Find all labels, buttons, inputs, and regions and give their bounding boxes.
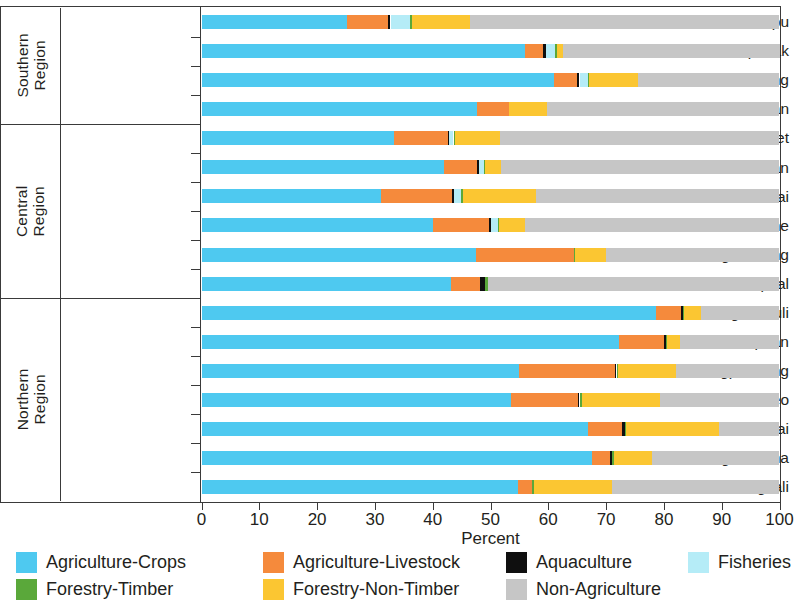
legend-swatch: [506, 579, 527, 600]
bar-segment-agriculture-livestock: [511, 393, 577, 407]
bar-segment-non-agriculture: [500, 131, 779, 145]
x-axis-tick-label: 90: [712, 510, 731, 530]
x-axis-tick-label: 70: [597, 510, 616, 530]
bar-segment-agriculture-crops: [202, 480, 519, 494]
bars-layer: [202, 8, 780, 502]
bar-segment-agriculture-livestock: [477, 102, 509, 116]
y-axis-tick: [191, 66, 200, 67]
y-axis-tick: [191, 124, 200, 125]
x-axis-tick: [375, 503, 376, 510]
x-axis-tick: [722, 503, 723, 510]
legend-swatch: [263, 552, 284, 573]
bar-segment-agriculture-crops: [202, 277, 451, 291]
bar-segment-non-agriculture: [612, 480, 779, 494]
x-axis-tick: [259, 503, 260, 510]
bar-segment-non-agriculture: [652, 451, 779, 465]
bar-segment-fisheries: [391, 15, 410, 29]
y-axis-tick: [191, 240, 200, 241]
region-label: CentralRegion: [2, 124, 60, 298]
legend-item-aquaculture[interactable]: Aquaculture: [506, 552, 632, 573]
bar-segment-agriculture-crops: [202, 189, 381, 203]
bar-segment-non-agriculture: [547, 102, 779, 116]
bar-row: [202, 364, 780, 378]
bar-segment-agriculture-livestock: [476, 248, 574, 262]
x-axis-tick-label: 10: [250, 510, 269, 530]
bar-segment-forestry-non-timber: [455, 131, 501, 145]
bar-segment-forestry-non-timber: [626, 422, 718, 436]
legend-item-agriculture-livestock[interactable]: Agriculture-Livestock: [263, 552, 460, 573]
legend-label: Forestry-Timber: [46, 579, 173, 600]
bar-segment-agriculture-crops: [202, 102, 478, 116]
legend-swatch: [506, 552, 527, 573]
bar-segment-forestry-non-timber: [412, 15, 470, 29]
x-axis-tick-label: 20: [308, 510, 327, 530]
bar-segment-agriculture-livestock: [588, 422, 623, 436]
bar-row: [202, 218, 780, 232]
region-group-southern-region: SouthernRegion: [0, 8, 200, 124]
bar-segment-agriculture-livestock: [433, 218, 490, 232]
region-vertical-divider: [60, 298, 61, 501]
y-axis-tick: [191, 385, 200, 386]
region-label-text: NorthernRegion: [14, 369, 49, 431]
bar-segment-agriculture-livestock: [518, 480, 532, 494]
bar-segment-non-agriculture: [676, 364, 779, 378]
bar-row: [202, 393, 780, 407]
bar-segment-agriculture-livestock: [381, 189, 453, 203]
bar-segment-agriculture-crops: [202, 15, 348, 29]
x-axis-tick: [606, 503, 607, 510]
legend-label: Forestry-Non-Timber: [293, 579, 459, 600]
bar-segment-agriculture-crops: [202, 73, 555, 87]
bar-segment-non-agriculture: [563, 44, 780, 58]
legend-item-forestry-non-timber[interactable]: Forestry-Non-Timber: [263, 579, 459, 600]
y-axis-tick: [191, 95, 200, 96]
bar-segment-agriculture-crops: [202, 364, 520, 378]
bar-segment-forestry-non-timber: [667, 335, 680, 349]
bar-row: [202, 480, 780, 494]
bar-segment-forestry-non-timber: [575, 248, 606, 262]
bar-segment-agriculture-crops: [202, 131, 394, 145]
bar-row: [202, 451, 780, 465]
legend-label: Non-Agriculture: [536, 579, 661, 600]
bar-segment-fisheries: [546, 44, 555, 58]
y-axis-tick: [191, 182, 200, 183]
x-axis-tick: [317, 503, 318, 510]
bar-segment-agriculture-livestock: [592, 451, 610, 465]
bar-segment-agriculture-livestock: [519, 364, 614, 378]
y-axis-tick: [191, 298, 200, 299]
x-axis-tick-label: 60: [539, 510, 558, 530]
bar-segment-forestry-non-timber: [499, 218, 524, 232]
legend-item-fisheries[interactable]: Fisheries: [688, 552, 791, 573]
bar-segment-agriculture-crops: [202, 422, 588, 436]
bar-segment-non-agriculture: [536, 189, 779, 203]
x-axis-tick-label: 100: [765, 510, 793, 530]
bar-segment-forestry-non-timber: [485, 160, 502, 174]
bar-segment-forestry-non-timber: [589, 73, 638, 87]
x-axis-tick-label: 80: [654, 510, 673, 530]
region-group-central-region: CentralRegion: [0, 124, 200, 298]
bar-segment-agriculture-crops: [202, 335, 620, 349]
bar-row: [202, 102, 780, 116]
bar-segment-forestry-non-timber: [582, 393, 660, 407]
bar-row: [202, 44, 780, 58]
legend-item-forestry-timber[interactable]: Forestry-Timber: [16, 579, 173, 600]
bar-segment-forestry-non-timber: [684, 306, 701, 320]
bar-row: [202, 160, 780, 174]
y-axis-tick: [191, 356, 200, 357]
region-separator: [0, 298, 200, 299]
y-axis-tick: [191, 443, 200, 444]
region-vertical-divider: [60, 124, 61, 298]
bar-segment-forestry-non-timber: [509, 102, 547, 116]
bar-segment-agriculture-crops: [202, 393, 512, 407]
bar-segment-non-agriculture: [719, 422, 780, 436]
y-axis-tick: [191, 472, 200, 473]
x-axis-tick: [491, 503, 492, 510]
bar-segment-agriculture-livestock: [554, 73, 577, 87]
region-label-text: CentralRegion: [14, 185, 49, 236]
y-axis-tick: [191, 269, 200, 270]
legend-item-non-agriculture[interactable]: Non-Agriculture: [506, 579, 661, 600]
x-axis-tick-label: 40: [423, 510, 442, 530]
x-axis-tick-label: 0: [197, 510, 206, 530]
legend-item-agriculture-crops[interactable]: Agriculture-Crops: [16, 552, 186, 573]
bar-segment-agriculture-crops: [202, 44, 525, 58]
bar-segment-non-agriculture: [638, 73, 780, 87]
